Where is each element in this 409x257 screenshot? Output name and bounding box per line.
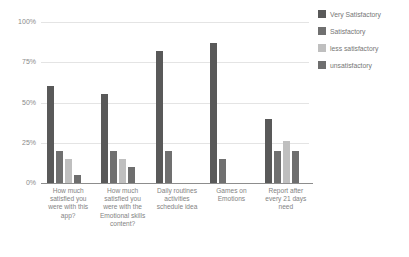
bar-group-bars — [204, 22, 258, 183]
y-axis-tick-label: 75% — [22, 58, 36, 66]
x-axis-line — [41, 183, 313, 184]
bar[interactable] — [274, 151, 281, 183]
bar[interactable] — [110, 151, 117, 183]
bar-group — [41, 22, 95, 183]
bar-groups — [41, 22, 313, 183]
bar-group-bars — [41, 22, 95, 183]
bar-group — [204, 22, 258, 183]
bar[interactable] — [65, 159, 72, 183]
bar[interactable] — [74, 175, 81, 183]
bar[interactable] — [265, 119, 272, 183]
bar[interactable] — [156, 51, 163, 183]
legend-swatch-icon — [318, 27, 326, 35]
bar[interactable] — [101, 94, 108, 183]
legend-item[interactable]: less satisfactory — [318, 44, 408, 53]
bar[interactable] — [292, 151, 299, 183]
x-axis-tick-label: Report after every 21 days need — [259, 187, 313, 228]
x-axis-tick-label: Daily routines activities schedule idea — [150, 187, 204, 228]
y-axis-tick-label: 0% — [26, 179, 36, 187]
bar[interactable] — [283, 141, 290, 183]
legend-item-label: less satisfactory — [330, 44, 378, 53]
bar[interactable] — [165, 151, 172, 183]
legend-swatch-icon — [318, 10, 326, 18]
bar[interactable] — [219, 159, 226, 183]
x-axis-tick-label: Games on Emotions — [204, 187, 258, 228]
legend-swatch-icon — [318, 61, 326, 69]
bar[interactable] — [128, 167, 135, 183]
legend-item[interactable]: unsatisfactory — [318, 61, 408, 70]
bar[interactable] — [56, 151, 63, 183]
bar-group — [150, 22, 204, 183]
legend-swatch-icon — [318, 44, 326, 52]
bar[interactable] — [47, 86, 54, 183]
x-axis-tick-label: How much satisfied you were with the Emo… — [95, 187, 149, 228]
x-axis-labels: How much satisfied you were with this ap… — [41, 187, 313, 228]
y-axis-tick-label: 100% — [18, 18, 36, 26]
bar-chart: 100%75%50%25%0% How much satisfied you w… — [0, 0, 409, 257]
bar-group — [259, 22, 313, 183]
y-axis-tick-label: 25% — [22, 139, 36, 147]
y-axis-tick-label: 50% — [22, 99, 36, 107]
bar[interactable] — [210, 43, 217, 183]
legend-item-label: Very Satisfactory — [330, 10, 381, 19]
legend-item-label: Satisfactory — [330, 27, 366, 36]
bar-group-bars — [259, 22, 313, 183]
chart-legend: Very SatisfactorySatisfactoryless satisf… — [318, 10, 408, 78]
bar-group-bars — [150, 22, 204, 183]
legend-item[interactable]: Satisfactory — [318, 27, 408, 36]
x-axis-tick-label: How much satisfied you were with this ap… — [41, 187, 95, 228]
bar-group-bars — [95, 22, 149, 183]
bar[interactable] — [119, 159, 126, 183]
legend-item-label: unsatisfactory — [330, 61, 372, 70]
legend-item[interactable]: Very Satisfactory — [318, 10, 408, 19]
bar-group — [95, 22, 149, 183]
